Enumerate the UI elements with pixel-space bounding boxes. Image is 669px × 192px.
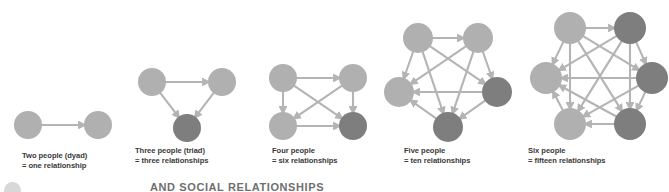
person-node: [208, 68, 236, 96]
caption-dyad: Two people (dyad)= one relationship: [22, 151, 87, 171]
caption-tetrad: Four people= six relationships: [272, 146, 338, 166]
person-node: [269, 112, 297, 140]
relationship-edge: [636, 41, 647, 65]
network-group-pentad: [384, 23, 512, 142]
person-node: [614, 12, 646, 44]
person-node: [339, 64, 367, 92]
relationship-edge: [482, 50, 492, 79]
relationship-edge: [459, 100, 487, 120]
person-node: [554, 12, 586, 44]
relationship-edge: [552, 90, 563, 111]
caption-relationship-count: = ten relationships: [404, 156, 470, 166]
person-node: [530, 62, 562, 94]
caption-relationship-count: = six relationships: [272, 156, 338, 166]
relationship-edge: [422, 50, 444, 114]
caption-relationship-count: = three relationships: [135, 156, 208, 166]
caption-relationship-count: = one relationship: [22, 161, 87, 171]
relationship-edge: [194, 92, 214, 119]
relationship-edge: [403, 50, 413, 79]
relationship-edge: [636, 91, 646, 112]
caption-people-count: Three people (triad): [135, 146, 205, 155]
network-group-hexad: [530, 12, 668, 140]
person-node: [84, 111, 112, 139]
person-node: [403, 23, 433, 53]
relationship-edge: [159, 92, 179, 119]
network-group-tetrad: [269, 64, 367, 140]
person-node: [339, 112, 367, 140]
caption-pentad: Five people= ten relationships: [404, 146, 470, 166]
caption-relationship-count: = fifteen relationships: [528, 156, 606, 166]
caption-people-count: Four people: [272, 146, 315, 155]
person-node: [554, 108, 586, 140]
network-group-dyad: [14, 111, 112, 139]
relationship-edge: [452, 50, 474, 114]
figure-number-badge: [4, 182, 21, 192]
caption-hexad: Six people= fifteen relationships: [528, 146, 606, 166]
person-node: [463, 23, 493, 53]
person-node: [173, 114, 201, 142]
caption-people-count: Five people: [404, 146, 445, 155]
person-node: [433, 112, 463, 142]
social-relationships-diagram: Two people (dyad)= one relationshipThree…: [0, 0, 669, 192]
person-node: [269, 64, 297, 92]
person-node: [384, 77, 414, 107]
figure-title-partial: AND SOCIAL RELATIONSHIPS: [150, 181, 324, 192]
person-node: [482, 77, 512, 107]
person-node: [636, 62, 668, 94]
person-node: [14, 111, 42, 139]
relationship-edge: [410, 100, 438, 120]
relationship-edge: [552, 41, 564, 66]
bottom-caption-strip: AND SOCIAL RELATIONSHIPS: [0, 180, 669, 192]
caption-triad: Three people (triad)= three relationship…: [135, 146, 208, 166]
person-node: [614, 108, 646, 140]
caption-people-count: Two people (dyad): [22, 151, 87, 160]
network-group-triad: [138, 68, 236, 142]
person-node: [138, 68, 166, 96]
caption-people-count: Six people: [528, 146, 565, 155]
